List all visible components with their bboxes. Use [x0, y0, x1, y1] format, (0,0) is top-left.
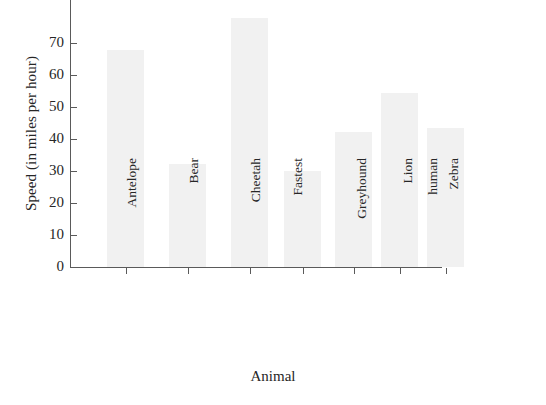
y-tick-20: 20 — [70, 203, 77, 204]
y-tick-label-40: 40 — [49, 130, 64, 147]
y-tick-50: 50 — [70, 107, 77, 108]
y-tick-0: 0 — [70, 267, 77, 268]
y-tick-70: 70 — [70, 43, 77, 44]
y-axis-title: Speed (in miles per hour) — [23, 9, 40, 259]
x-label-lion: Lion — [400, 158, 415, 278]
y-tick-40: 40 — [70, 139, 77, 140]
x-label-bear: Bear — [186, 158, 201, 278]
x-label-cheetah: Cheetah — [248, 158, 263, 278]
y-tick-30: 30 — [70, 171, 77, 172]
x-label-zebra: Zebra — [446, 158, 461, 278]
y-axis-line — [70, 0, 71, 268]
y-tick-label-60: 60 — [49, 66, 64, 83]
y-tick-label-10: 10 — [49, 226, 64, 243]
x-label-fastest-human: Fastest human — [290, 278, 545, 293]
y-tick-label-50: 50 — [49, 98, 64, 115]
y-tick-10: 10 — [70, 235, 77, 236]
chart-figure: Speed (in miles per hour) 70 60 50 40 30… — [0, 0, 546, 405]
y-tick-label-70: 70 — [49, 34, 64, 51]
x-label-fastest-human-line1: Fastest — [290, 158, 305, 278]
y-tick-label-0: 0 — [57, 258, 65, 275]
x-label-greyhound: Greyhound — [354, 158, 369, 278]
y-tick-60: 60 — [70, 75, 77, 76]
y-tick-label-20: 20 — [49, 194, 64, 211]
x-label-fastest-human-line2: human — [425, 158, 440, 278]
y-tick-label-30: 30 — [49, 162, 64, 179]
x-label-antelope: Antelope — [124, 158, 139, 278]
x-axis-title: Animal — [0, 368, 546, 385]
